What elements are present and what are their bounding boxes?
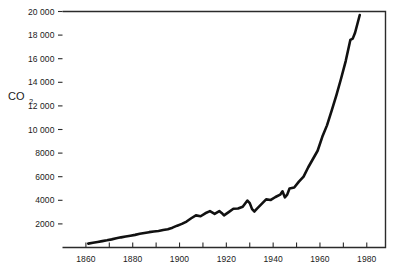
y-tick-label-4000: 4000: [35, 195, 54, 205]
x-axis-tick-labels: 1860188019001920194019601980: [76, 254, 376, 264]
y-axis-title: CO 2: [8, 90, 33, 106]
y-tick-label-8000: 8000: [35, 148, 54, 158]
y-axis-title-text: CO: [8, 90, 25, 102]
y-axis-tick-labels: 200040006000800010 00012 00014 00016 000…: [28, 7, 55, 229]
y-tick-label-16000: 16 000: [28, 54, 55, 64]
y-tick-label-18000: 18 000: [28, 30, 55, 40]
y-tick-label-6000: 6000: [35, 172, 54, 182]
chart-canvas: 200040006000800010 00012 00014 00016 000…: [0, 0, 399, 274]
x-tick-label-1940: 1940: [263, 254, 282, 264]
y-axis-ticks: [58, 12, 63, 224]
x-axis-ticks: [86, 243, 367, 248]
x-tick-label-1900: 1900: [170, 254, 189, 264]
y-axis-title-subscript: 2: [29, 97, 33, 106]
axis-frame-path: [63, 12, 386, 248]
co2-emissions-chart-figure: 200040006000800010 00012 00014 00016 000…: [0, 0, 399, 274]
x-tick-label-1980: 1980: [357, 254, 376, 264]
x-tick-label-1960: 1960: [310, 254, 329, 264]
y-tick-label-10000: 10 000: [28, 125, 55, 135]
co2-series-line: [88, 15, 360, 244]
y-tick-label-2000: 2000: [35, 219, 54, 229]
x-tick-label-1920: 1920: [217, 254, 236, 264]
plot-frame: [63, 12, 386, 248]
data-series-group: [88, 15, 360, 244]
x-tick-label-1860: 1860: [76, 254, 95, 264]
y-tick-label-20000: 20 000: [28, 7, 55, 17]
y-tick-label-14000: 14 000: [28, 77, 55, 87]
x-tick-label-1880: 1880: [123, 254, 142, 264]
